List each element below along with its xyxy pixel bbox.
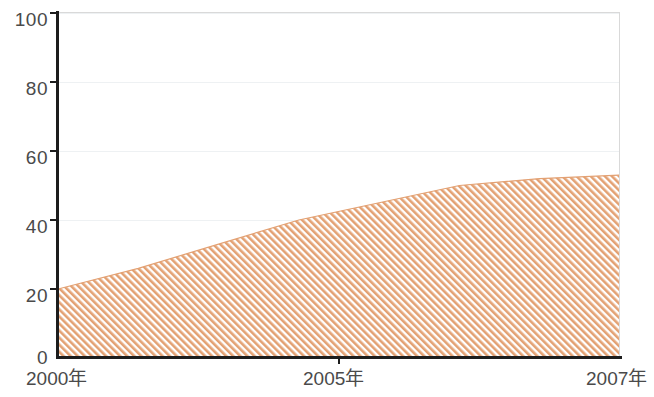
y-tick-100 [50, 12, 58, 14]
y-tick-label-100: 100 [15, 10, 48, 29]
y-axis-line [56, 11, 59, 358]
y-tick-label-60: 60 [26, 148, 48, 167]
x-tick-label-2007: 2007年 [586, 368, 647, 390]
area-chart: 100 80 60 40 20 0 2000年 2005年 2007年 [0, 0, 654, 397]
plot-area [58, 12, 620, 357]
y-tick-40 [50, 219, 58, 221]
y-tick-label-40: 40 [26, 217, 48, 236]
y-tick-80 [50, 81, 58, 83]
y-tick-label-80: 80 [26, 79, 48, 98]
x-tick-2005 [338, 357, 340, 364]
y-tick-label-0: 0 [37, 348, 48, 367]
y-tick-60 [50, 150, 58, 152]
series-area-shape [58, 13, 620, 357]
x-tick-label-2000: 2000年 [26, 368, 87, 390]
y-tick-20 [50, 288, 58, 290]
y-tick-label-20: 20 [26, 286, 48, 305]
x-tick-label-2005: 2005年 [303, 368, 364, 390]
